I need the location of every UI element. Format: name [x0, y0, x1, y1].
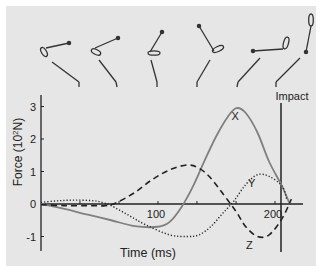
y-tick-label: 1 [30, 166, 36, 178]
curves [41, 108, 291, 237]
swing-figure-1 [39, 41, 79, 87]
x-tick-label: 200 [264, 208, 282, 220]
swing-figures [39, 14, 313, 87]
curve-label-x: X [232, 110, 240, 122]
swing-figure-3 [148, 30, 164, 87]
swing-figure-4 [197, 24, 224, 87]
swing-figure-5 [237, 37, 290, 87]
curve-label-z: Z [246, 239, 253, 251]
x-tick-label: 100 [147, 208, 165, 220]
y-tick-label: 2 [30, 133, 36, 145]
y-tick-label: 3 [30, 101, 36, 113]
y-tick-label: -1 [26, 231, 36, 243]
curve-label-y: Y [248, 177, 256, 189]
impact-label: Impact [275, 90, 308, 102]
y-tick-label: 0 [30, 198, 36, 210]
curve-labels: ImpactXYZ [232, 90, 309, 251]
curve-z [41, 165, 291, 237]
swing-figure-6 [276, 14, 313, 87]
y-axis-label: Force (102N) [11, 118, 25, 186]
x-axis-label: Time (ms) [120, 246, 176, 260]
swing-figure-2 [90, 36, 119, 87]
force-time-chart: -10123 100200 ImpactXYZ Time (ms) Force … [0, 0, 323, 274]
